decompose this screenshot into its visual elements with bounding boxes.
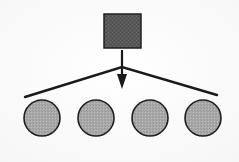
target-node-circle[interactable] bbox=[24, 100, 60, 136]
source-node-square[interactable] bbox=[104, 14, 141, 48]
target-node-circle[interactable] bbox=[78, 100, 114, 136]
target-node-circle[interactable] bbox=[132, 100, 168, 136]
diagram-figure bbox=[0, 0, 239, 162]
diagram-canvas bbox=[0, 0, 239, 162]
target-node-circle[interactable] bbox=[185, 100, 221, 136]
